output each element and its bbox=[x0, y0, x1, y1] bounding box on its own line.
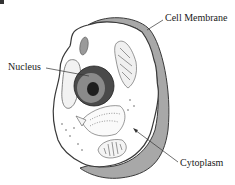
nucleus-label: Nucleus bbox=[8, 62, 41, 72]
nucleolus bbox=[87, 82, 99, 96]
cell-membrane-pointer bbox=[147, 20, 163, 30]
nucleus bbox=[74, 66, 114, 106]
cytoplasm-label: Cytoplasm bbox=[180, 158, 223, 168]
cell-membrane-label: Cell Membrane bbox=[165, 13, 227, 23]
